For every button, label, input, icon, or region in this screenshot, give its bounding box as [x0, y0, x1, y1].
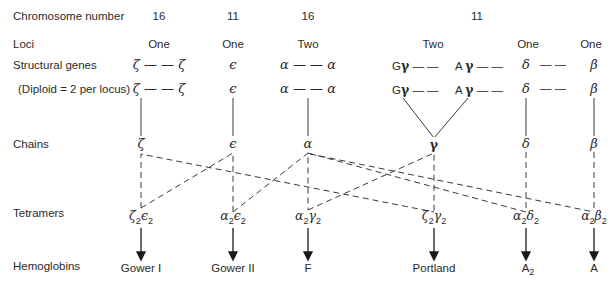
- chromosome-epsilon: 11: [227, 10, 239, 22]
- tetramer-alpha2-beta2: α2β2: [581, 208, 607, 223]
- arrow-icon: [590, 252, 598, 260]
- gene-alpha-pair: α — — α: [280, 57, 336, 72]
- hemoglobin-portland: Portland: [413, 262, 456, 274]
- chromosome-beta-cluster: 11: [471, 10, 483, 22]
- loci-zeta: One: [148, 38, 170, 50]
- gene-epsilon: ϵ: [229, 57, 236, 72]
- hemoglobin-a: A: [590, 262, 598, 274]
- arrow-icon: [304, 252, 312, 260]
- diploid-zeta-pair: ζ — — ζ: [133, 81, 186, 96]
- row-label-loci: Loci: [13, 38, 34, 50]
- chromosome-zeta: 16: [153, 10, 166, 22]
- row-label-diploid: (Diploid = 2 per locus): [18, 83, 130, 95]
- arrow-icon: [229, 252, 237, 260]
- alpha-to-beta-dash: [310, 154, 594, 212]
- tetramer-alpha2-epsilon2: α2ϵ2: [220, 208, 246, 223]
- loci-gamma: Two: [422, 38, 443, 50]
- loci-beta: One: [580, 38, 602, 50]
- diploid-beta: β: [590, 81, 598, 96]
- arrow-icon: [430, 252, 438, 260]
- gene-zeta-pair: ζ — — ζ: [133, 57, 186, 72]
- chain-epsilon: ϵ: [229, 136, 236, 151]
- chain-gamma: γ: [430, 137, 438, 152]
- diploid-a-gamma: A γ — —: [455, 82, 503, 97]
- diploid-epsilon: ϵ: [229, 81, 236, 96]
- tetramer-alpha2-delta2: α2δ2: [513, 208, 539, 223]
- gene-g-gamma: Gγ — —: [392, 58, 439, 73]
- zeta-chain-dash: [141, 154, 434, 212]
- tetramer-alpha2-gamma2: α2γ2: [295, 208, 321, 223]
- hemoglobin-gower-i: Gower I: [121, 262, 161, 274]
- loci-epsilon: One: [222, 38, 244, 50]
- chain-zeta: ζ: [137, 136, 144, 151]
- tetramer-zeta2-epsilon2: ζ2ϵ2: [129, 208, 153, 223]
- tetramer-zeta2-gamma2: ζ2γ2: [422, 208, 446, 223]
- hemoglobin-a2: A2: [522, 262, 535, 274]
- hemoglobin-gower-ii: Gower II: [211, 262, 254, 274]
- hemoglobin-f: F: [304, 262, 311, 274]
- diploid-g-gamma: Gγ — —: [392, 82, 439, 97]
- chain-alpha: α: [304, 136, 313, 151]
- diploid-alpha-pair: α — — α: [280, 81, 336, 96]
- row-label-hemoglobins: Hemoglobins: [13, 260, 80, 272]
- gene-beta: β: [590, 57, 598, 72]
- chromosome-alpha: 16: [302, 10, 315, 22]
- chain-beta: β: [590, 136, 598, 151]
- chain-delta: δ: [522, 136, 530, 151]
- agamma-gene-line: [434, 98, 468, 138]
- row-label-chromosome: Chromosome number: [13, 10, 124, 22]
- epsilon-chain-dash: [141, 153, 233, 212]
- alpha-to-delta-dash: [308, 153, 526, 212]
- arrow-icon: [522, 252, 530, 260]
- row-label-chains: Chains: [13, 138, 49, 150]
- row-label-tetramers: Tetramers: [13, 207, 64, 219]
- loci-delta: One: [517, 38, 539, 50]
- alpha-chain-dash: [233, 153, 308, 212]
- gene-delta: δ: [522, 57, 530, 72]
- row-label-structural-genes: Structural genes: [13, 59, 97, 71]
- ggamma-gene-line: [403, 98, 434, 138]
- arrow-icon: [137, 252, 145, 260]
- gene-dash: — —: [540, 58, 566, 70]
- diploid-delta: δ: [522, 81, 530, 96]
- diploid-dash: — —: [540, 82, 566, 94]
- loci-alpha: Two: [297, 38, 318, 50]
- gene-a-gamma: A γ — —: [455, 58, 503, 73]
